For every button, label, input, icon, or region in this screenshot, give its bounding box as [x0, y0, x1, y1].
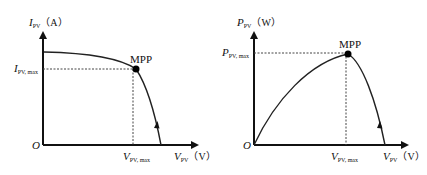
pv-y-axis-label: PPV（W）: [236, 16, 281, 29]
iv-chart: MPP O IPV（A） IPV, max VPV, max VPV（V）: [13, 16, 216, 163]
pv-origin-label: O: [243, 139, 251, 151]
iv-mpp-point: [133, 66, 140, 73]
iv-imax-label: IPV, max: [13, 62, 38, 75]
iv-curve: [44, 52, 161, 145]
iv-vmax-label: VPV, max: [123, 150, 150, 163]
pv-pmax-label: PPV, max: [221, 46, 249, 59]
iv-y-axis-label: IPV（A）: [28, 16, 68, 29]
pv-vmax-label: VPV, max: [331, 150, 358, 163]
iv-x-axis-label: VPV（V）: [174, 150, 216, 163]
pv-chart: MPP O PPV（W） PPV, max VPV, max VPV（V）: [221, 16, 425, 163]
pv-curve: [254, 54, 385, 145]
iv-origin-label: O: [32, 139, 40, 151]
pv-mpp-label: MPP: [339, 38, 361, 50]
pv-mpp-point: [345, 51, 352, 58]
pv-curve-direction-arrow-icon: [377, 121, 383, 129]
pv-characteristics-diagram: MPP O IPV（A） IPV, max VPV, max VPV（V） MP…: [0, 0, 427, 175]
pv-x-axis-label: VPV（V）: [383, 150, 425, 163]
iv-mpp-label: MPP: [130, 53, 152, 65]
